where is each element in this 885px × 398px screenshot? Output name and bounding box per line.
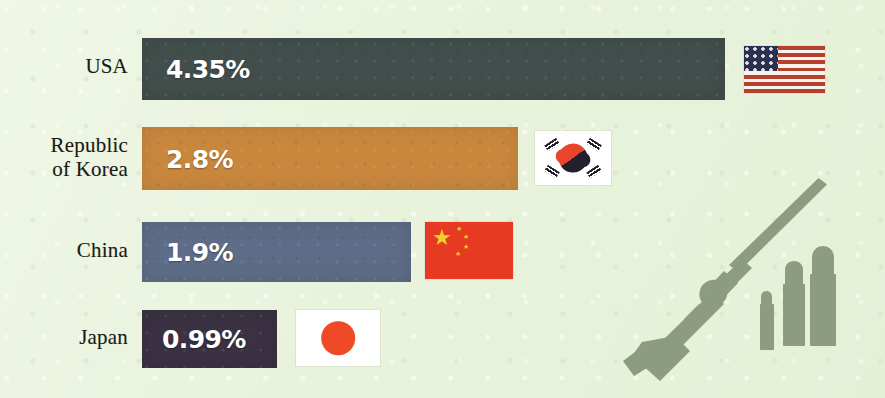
bar-value-usa: 4.35% — [166, 55, 250, 84]
flag-japan — [296, 310, 380, 366]
bar-row-china: China 1.9% ★ ★ ★ ★ ★ — [0, 222, 885, 282]
category-label-china: China — [0, 239, 128, 263]
trigram-icon — [586, 165, 602, 179]
china-large-star-icon: ★ — [432, 227, 452, 249]
flag-usa — [744, 46, 825, 93]
trigram-icon — [544, 137, 560, 151]
bar-value-republic-of-korea: 2.8% — [166, 145, 233, 174]
bar-row-republic-of-korea: Republic of Korea 2.8% — [0, 127, 885, 190]
china-small-star-icon: ★ — [463, 234, 469, 241]
china-small-star-icon: ★ — [456, 226, 462, 233]
bar-row-japan: Japan 0.99% — [0, 310, 885, 368]
flag-south-korea — [535, 131, 611, 185]
hinomaru-icon — [321, 321, 355, 355]
bar-row-usa: USA 4.35% — [0, 38, 885, 100]
category-label-republic-of-korea: Republic of Korea — [0, 134, 128, 181]
usa-canton-stars-icon — [744, 46, 778, 71]
rifle-lever-loop-icon — [699, 280, 727, 308]
category-label-usa: USA — [0, 55, 128, 79]
china-small-star-icon: ★ — [455, 251, 461, 258]
bar-value-china: 1.9% — [166, 238, 233, 267]
bar-value-japan: 0.99% — [162, 325, 246, 354]
china-small-star-icon: ★ — [463, 244, 469, 251]
category-label-japan: Japan — [0, 326, 128, 350]
trigram-icon — [586, 137, 602, 151]
trigram-icon — [544, 165, 560, 179]
chart-figure: USA 4.35% Republic of Korea 2.8% China 1… — [0, 0, 885, 398]
flag-china: ★ ★ ★ ★ ★ — [425, 222, 513, 279]
